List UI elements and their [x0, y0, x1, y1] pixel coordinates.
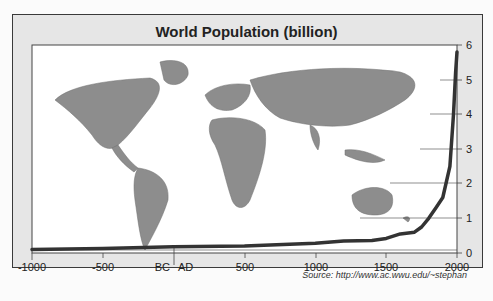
- svg-text:AD: AD: [178, 261, 193, 273]
- svg-text:6: 6: [466, 39, 472, 51]
- svg-text:1: 1: [466, 212, 472, 224]
- y-tick-labels: 0 1 2 3 4 5 6: [466, 39, 472, 259]
- source-caption: Source: http://www.ac.wwu.edu/~stephan: [302, 270, 467, 280]
- svg-text:-500: -500: [92, 261, 114, 273]
- svg-text:5: 5: [466, 74, 472, 86]
- svg-text:2: 2: [466, 177, 472, 189]
- svg-text:4: 4: [466, 108, 472, 120]
- svg-text:0: 0: [466, 247, 472, 259]
- y-ticks: [457, 45, 462, 253]
- svg-text:3: 3: [466, 143, 472, 155]
- svg-text:500: 500: [236, 261, 254, 273]
- svg-text:BC: BC: [155, 261, 170, 273]
- chart-plot: -1000 -500 BC AD 500 1000 1500 2000 0 1 …: [0, 0, 493, 301]
- svg-text:-1000: -1000: [18, 261, 46, 273]
